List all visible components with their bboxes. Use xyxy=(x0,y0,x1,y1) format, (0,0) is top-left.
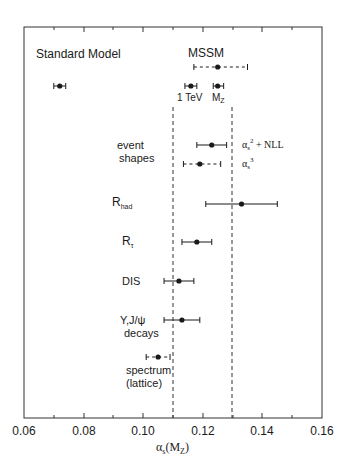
x-tick-label: 0.06 xyxy=(12,424,36,438)
standard-model-label: Standard Model xyxy=(36,47,121,61)
x-tick-label: 0.12 xyxy=(191,424,215,438)
shapes-label: shapes xyxy=(119,152,155,164)
x-tick-label: 0.16 xyxy=(310,424,334,438)
nll-label: αs2 + NLL xyxy=(242,137,284,152)
error-bar-point xyxy=(164,278,194,284)
alpha-s-chart: 0.06 0.08 0.10 0.12 0.14 0.16 αs(MZ) Sta… xyxy=(0,0,349,476)
x-tick-label: 0.08 xyxy=(72,424,96,438)
error-bar-point xyxy=(206,201,278,207)
event-label: event xyxy=(117,139,144,151)
alpha3-label: αs3 xyxy=(242,156,254,171)
top-ticks xyxy=(54,27,292,32)
rhad-label: Rhad xyxy=(112,195,132,210)
data-points xyxy=(54,64,277,360)
decays-label: decays xyxy=(124,327,159,339)
error-bar-point xyxy=(54,83,66,89)
mssm-label: MSSM xyxy=(188,46,224,60)
mz-label: MZ xyxy=(212,92,225,104)
error-bar-point xyxy=(197,142,227,148)
dis-label: DIS xyxy=(122,275,140,287)
spectrum-label: spectrum xyxy=(126,364,171,376)
error-bar-point xyxy=(194,64,248,70)
tev-label: 1 TeV xyxy=(177,92,203,103)
error-bar-point xyxy=(182,239,212,245)
rtau-label: Rτ xyxy=(122,234,134,249)
error-bar-point xyxy=(183,161,220,167)
x-tick-label: 0.10 xyxy=(131,424,155,438)
x-tick-labels: 0.06 0.08 0.10 0.12 0.14 0.16 xyxy=(12,424,334,438)
error-bar-point xyxy=(213,83,223,89)
upsilon-label: Υ,J/ψ xyxy=(120,314,146,326)
lattice-label: (lattice) xyxy=(126,377,162,389)
error-bar-point xyxy=(146,354,170,360)
x-tick-label: 0.14 xyxy=(250,424,274,438)
error-bar-point xyxy=(185,83,197,89)
error-bar-point xyxy=(164,317,200,323)
x-axis-label: αs(MZ) xyxy=(156,440,189,456)
